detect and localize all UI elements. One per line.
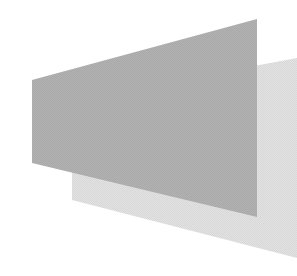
- planes-illustration: [0, 0, 297, 276]
- abstract-graphic: [0, 0, 297, 276]
